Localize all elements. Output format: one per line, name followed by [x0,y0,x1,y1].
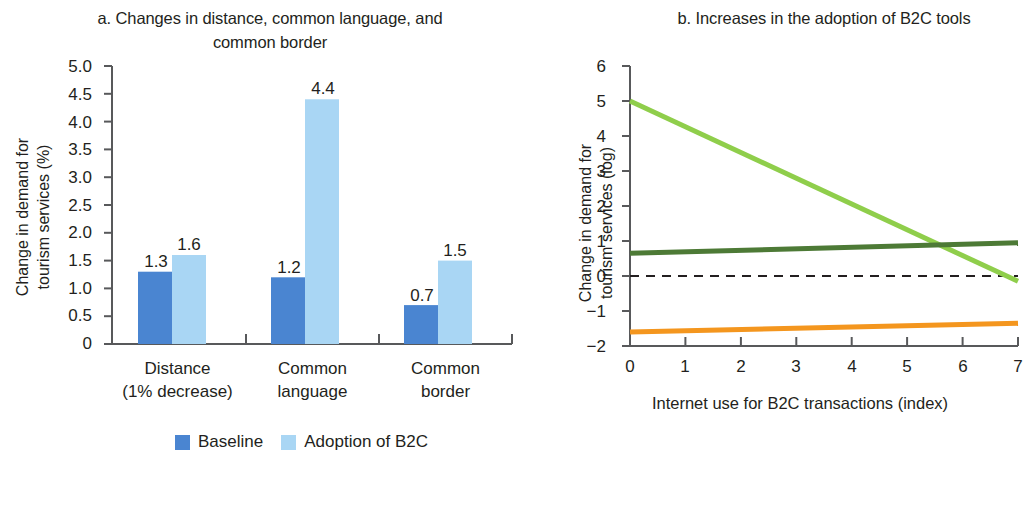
bar-baseline-distance [138,272,172,344]
panel-a-title: a. Changes in distance, common language,… [60,6,480,54]
legend-item-baseline[interactable]: Baseline [175,432,263,452]
panel-b-xtick-5: 5 [892,358,922,375]
bar-baseline-common-language [271,277,305,344]
panel-b-ytick-minus-2: −2 [566,338,606,355]
panel-b-xtick-7: 7 [1003,358,1028,375]
legend-item-adoption-of-b2c[interactable]: Adoption of B2C [281,432,428,452]
panel-b-plot [618,56,1028,356]
series-line-common-language [630,101,1018,281]
panel-a-ytick-4-5: 4.5 [46,86,92,103]
panel-b-ytick-5: 5 [576,93,606,110]
panel-a-plot [98,56,518,356]
panel-a-title-line2: common border [213,33,327,51]
panel-b-xtick-4: 4 [837,358,867,375]
panel-a-ytick-0-5: 0.5 [46,307,92,324]
panel-a-category-common-language-line2: language [278,382,348,401]
figure-container: a. Changes in distance, common language,… [0,0,1028,518]
bar-value-b2c-common-border: 1.5 [430,242,480,259]
legend-label-adoption-of-b2c: Adoption of B2C [304,432,428,452]
panel-b-ytick-4: 4 [576,128,606,145]
bar-value-b2c-distance: 1.6 [164,236,214,253]
panel-a: a. Changes in distance, common language,… [0,0,520,518]
legend-swatch-adoption-of-b2c-icon [281,435,296,450]
panel-a-category-common-border-line1: Common [411,359,480,378]
panel-a-category-common-border: Common border [378,357,513,403]
panel-a-legend: Baseline Adoption of B2C [175,432,428,452]
panel-b-title: b. Increases in the adoption of B2C tool… [628,6,1020,30]
panel-b-y-ticks [622,66,630,346]
panel-b-x-ticks [630,337,1018,346]
panel-b-xtick-2: 2 [726,358,756,375]
panel-b-ytick-6: 6 [576,58,606,75]
panel-b-axis-lines [630,66,1018,346]
panel-a-ytick-3-0: 3.0 [46,169,92,186]
panel-a-category-distance-line2: (1% decrease) [122,382,233,401]
panel-a-ytick-3-5: 3.5 [46,141,92,158]
panel-b: b. Increases in the adoption of B2C tool… [520,0,1028,518]
panel-a-y-axis-label-line1: Change in demand for [14,138,31,296]
bar-value-baseline-common-border: 0.7 [397,287,447,304]
legend-swatch-baseline-icon [175,435,190,450]
panel-b-xtick-1: 1 [670,358,700,375]
panel-a-y-axis-label: Change in demand for tourism services (%… [12,97,54,337]
panel-a-category-distance-line1: Distance [144,359,210,378]
panel-a-ytick-2-0: 2.0 [46,224,92,241]
panel-a-ytick-1-5: 1.5 [46,252,92,269]
series-line-distance [630,323,1018,332]
legend-label-baseline: Baseline [198,432,263,452]
panel-b-ytick-1: 1 [576,233,606,250]
bar-baseline-common-border [404,305,438,344]
panel-b-xtick-3: 3 [781,358,811,375]
panel-a-category-common-language: Common language [245,357,380,403]
panel-a-category-distance: Distance (1% decrease) [110,357,245,403]
panel-a-category-common-border-line2: border [421,382,470,401]
panel-a-ytick-5-0: 5.0 [46,58,92,75]
panel-a-category-common-language-line1: Common [278,359,347,378]
bar-value-baseline-common-language: 1.2 [264,259,314,276]
panel-b-xtick-0: 0 [615,358,645,375]
panel-a-ytick-0: 0 [46,335,92,352]
bar-b2c-common-language [305,99,339,344]
bar-value-baseline-distance: 1.3 [131,253,181,270]
panel-b-ytick-minus-1: −1 [566,303,606,320]
panel-b-xtick-6: 6 [948,358,978,375]
panel-b-ytick-3: 3 [576,163,606,180]
panel-b-ytick-0: 0 [576,268,606,285]
panel-a-y-ticks [104,66,112,344]
panel-b-ytick-2: 2 [576,198,606,215]
panel-a-ytick-2-5: 2.5 [46,197,92,214]
panel-a-title-line1: a. Changes in distance, common language,… [97,9,442,27]
panel-a-ytick-4-0: 4.0 [46,114,92,131]
panel-b-x-axis-label: Internet use for B2C transactions (index… [580,392,1020,415]
panel-a-ytick-1-0: 1.0 [46,280,92,297]
bar-value-b2c-common-language: 4.4 [298,80,348,97]
